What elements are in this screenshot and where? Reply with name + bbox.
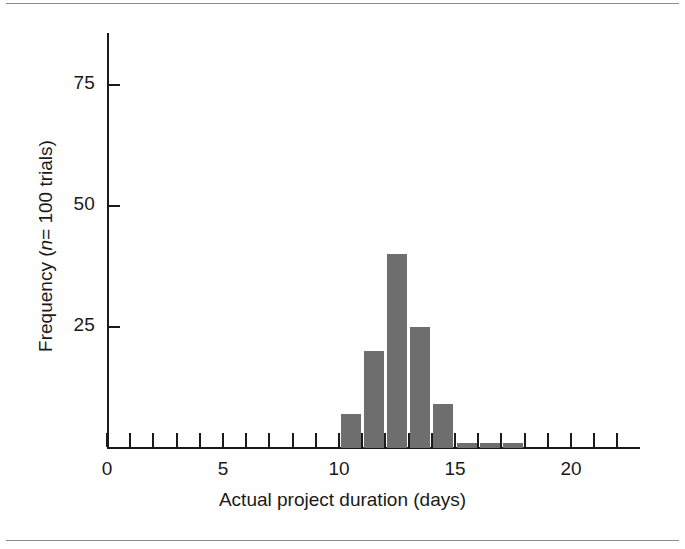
x-tick-6: [245, 433, 247, 447]
x-tick-9: [315, 433, 317, 447]
x-tick-2: [152, 433, 154, 447]
bar-day-12: [387, 254, 407, 448]
x-tick-21: [593, 433, 595, 447]
x-tick-label-0: 0: [77, 458, 137, 480]
histogram-plot-area: 255075 05101520 Actual project duration …: [0, 0, 685, 549]
x-tick-18: [524, 433, 526, 447]
bar-day-16: [480, 443, 500, 448]
y-axis-line: [107, 33, 109, 449]
x-tick-0: [106, 433, 108, 447]
x-tick-label-10: 10: [309, 458, 369, 480]
figure-panel: 255075 05101520 Actual project duration …: [0, 0, 685, 549]
y-axis-title: Frequency (n= 100 trials): [35, 46, 57, 446]
y-tick-75: [109, 84, 120, 86]
bar-day-11: [364, 351, 384, 448]
bar-day-10: [341, 414, 361, 448]
x-tick-19: [547, 433, 549, 447]
x-axis-title: Actual project duration (days): [0, 489, 685, 511]
bar-day-15: [457, 443, 477, 448]
x-tick-22: [616, 433, 618, 447]
y-axis-title-suffix: = 100 trials): [35, 140, 56, 240]
y-tick-50: [109, 205, 120, 207]
x-tick-20: [570, 433, 572, 447]
x-tick-1: [129, 433, 131, 447]
bar-day-13: [410, 327, 430, 448]
y-axis-title-italic-n: n: [35, 240, 56, 251]
x-tick-8: [292, 433, 294, 447]
x-tick-4: [199, 433, 201, 447]
y-tick-25: [109, 326, 120, 328]
x-tick-7: [268, 433, 270, 447]
x-tick-label-5: 5: [193, 458, 253, 480]
x-tick-5: [222, 433, 224, 447]
x-tick-label-15: 15: [425, 458, 485, 480]
y-axis-title-prefix: Frequency (: [35, 251, 56, 352]
x-tick-3: [176, 433, 178, 447]
bar-day-17: [503, 443, 523, 448]
bar-day-14: [433, 404, 453, 448]
x-tick-label-20: 20: [541, 458, 601, 480]
